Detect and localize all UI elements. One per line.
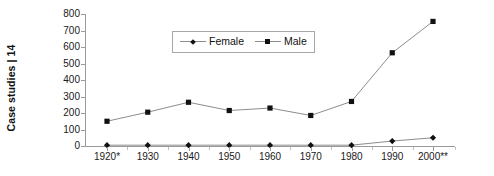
y-tick-label: 600 [38,42,80,52]
data-point-marker-square [349,99,354,104]
legend-label: Male [284,36,307,47]
y-tick-mark [81,31,85,32]
x-tick-label: 2000** [398,151,468,163]
data-point-marker-square [104,119,109,124]
data-point-marker-square [227,108,232,113]
x-minor-tick-mark [331,147,332,150]
y-tick-mark [81,64,85,65]
y-tick-mark [81,14,85,15]
y-tick-label: 100 [38,125,80,135]
y-tick-mark [81,130,85,131]
legend-entry-female[interactable]: Female [180,36,244,47]
x-minor-tick-mark [413,147,414,150]
y-tick-mark [81,113,85,114]
y-tick-label: 300 [38,92,80,102]
y-tick-label: 0 [38,141,80,151]
y-axis-tick-labels: 0100200300400500600700800 [38,10,80,152]
y-axis-title: Case studies | 14 [0,0,22,176]
x-minor-tick-mark [290,147,291,150]
y-tick-mark [81,97,85,98]
data-point-marker-square [267,105,272,110]
data-point-marker-square [145,110,150,115]
y-tick-label: 200 [38,108,80,118]
y-tick-mark [81,47,85,48]
data-point-marker-square [390,50,395,55]
y-tick-label: 400 [38,75,80,85]
legend-marker-diamond-icon [190,39,196,45]
legend-swatch-male-icon [255,37,281,46]
x-minor-tick-mark [168,147,169,150]
x-minor-tick-mark [250,147,251,150]
y-tick-label: 500 [38,59,80,69]
x-axis-tick-labels: 1920*19301940195019601970198019902000** [85,151,455,171]
x-minor-tick-mark [209,147,210,150]
y-tick-label: 800 [38,9,80,19]
chart-legend: FemaleMale [172,31,315,53]
y-tick-label: 700 [38,26,80,36]
data-point-marker-diamond [430,135,436,141]
data-point-marker-square [186,100,191,105]
x-minor-tick-mark [455,147,456,150]
x-minor-tick-mark [372,147,373,150]
y-tick-mark [81,80,85,81]
data-point-marker-diamond [389,138,395,144]
legend-label: Female [209,36,244,47]
legend-entry-male[interactable]: Male [255,36,307,47]
y-tick-mark [81,146,85,147]
data-point-marker-square [430,19,435,24]
legend-swatch-female-icon [180,37,206,46]
data-point-marker-square [308,113,313,118]
chart-figure: Case studies | 14 0100200300400500600700… [0,0,494,176]
legend-marker-square-icon [265,39,270,44]
x-minor-tick-mark [127,147,128,150]
